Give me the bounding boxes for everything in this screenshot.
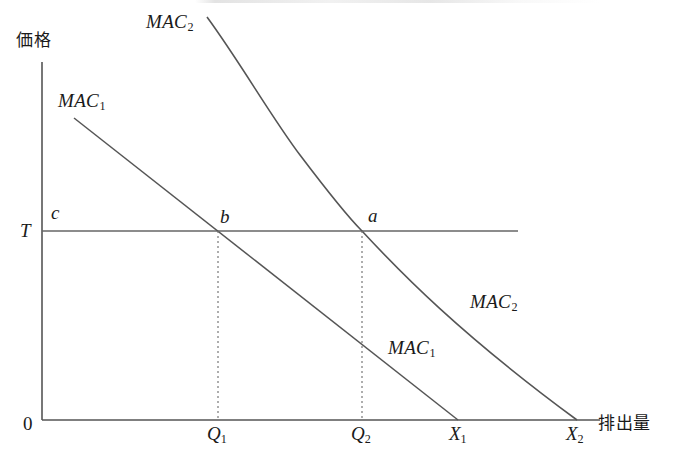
mac1-bottom-label: MAC1 <box>388 338 435 357</box>
point-label-b: b <box>220 207 230 226</box>
x-tick-x1-sub: 1 <box>461 432 467 446</box>
mac1-top-label-sub: 1 <box>100 99 106 113</box>
x-axis-title: 排出量 <box>598 415 651 432</box>
x-tick-q1-sub: 1 <box>221 432 227 446</box>
y-axis-title: 価格 <box>16 32 51 49</box>
mac2-top-label-sub: 2 <box>188 20 194 34</box>
x-tick-x1-text: X <box>449 423 461 444</box>
plot-canvas <box>0 0 675 459</box>
x-tick-label-q1: Q1 <box>207 424 227 443</box>
mac2-top-label-text: MAC <box>146 11 187 32</box>
point-label-c: c <box>51 203 59 222</box>
x-tick-q2-sub: 2 <box>365 432 371 446</box>
mac2-curve <box>207 17 577 420</box>
x-tick-label-q2: Q2 <box>351 424 371 443</box>
mac2-bottom-label-sub: 2 <box>512 300 518 314</box>
mac2-top-label: MAC2 <box>146 12 193 31</box>
mac1-bottom-label-text: MAC <box>388 337 429 358</box>
mac2-bottom-label-text: MAC <box>470 291 511 312</box>
origin-label: 0 <box>23 414 33 433</box>
y-tick-label-T: T <box>20 221 31 240</box>
mac1-curve <box>74 118 458 420</box>
mac-abatement-cost-diagram: 価格 排出量 0 T MAC1 MAC2 MAC1 MAC2 c b a Q1 … <box>0 0 675 459</box>
x-tick-x2-text: X <box>566 423 578 444</box>
x-tick-x2-sub: 2 <box>578 432 584 446</box>
mac1-bottom-label-sub: 1 <box>430 346 436 360</box>
point-label-a: a <box>368 206 378 225</box>
x-tick-label-x1: X1 <box>449 424 467 443</box>
mac2-bottom-label: MAC2 <box>470 292 517 311</box>
x-tick-q1-text: Q <box>207 423 221 444</box>
mac1-top-label: MAC1 <box>58 91 105 110</box>
x-tick-label-x2: X2 <box>566 424 584 443</box>
mac1-top-label-text: MAC <box>58 90 99 111</box>
x-tick-q2-text: Q <box>351 423 365 444</box>
